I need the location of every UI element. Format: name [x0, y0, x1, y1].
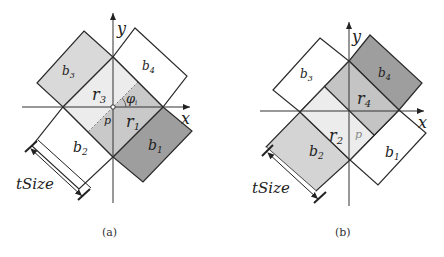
- label-p-b: p: [355, 128, 362, 141]
- tsize-label-a: tSize: [16, 175, 54, 193]
- label-p-a: p: [104, 114, 111, 127]
- origin-point-a: [111, 105, 115, 109]
- panel-a: x y b3 b4 b1 b2 r3 r1 p φi tSize (a): [16, 13, 192, 239]
- caption-b: (b): [335, 226, 351, 239]
- x-axis-label-a: x: [181, 109, 190, 128]
- tsize-label-b: tSize: [252, 179, 290, 197]
- x-axis-label-b: x: [418, 113, 427, 132]
- y-axis-label-b: y: [351, 27, 362, 46]
- diagram-canvas: x y b3 b4 b1 b2 r3 r1 p φi tSize (a): [0, 0, 444, 257]
- y-axis-label-a: y: [116, 19, 127, 38]
- caption-a: (a): [102, 226, 117, 239]
- panel-b: x y b3 b4 b1 b2 r4 r2 p tSize (b): [252, 22, 427, 239]
